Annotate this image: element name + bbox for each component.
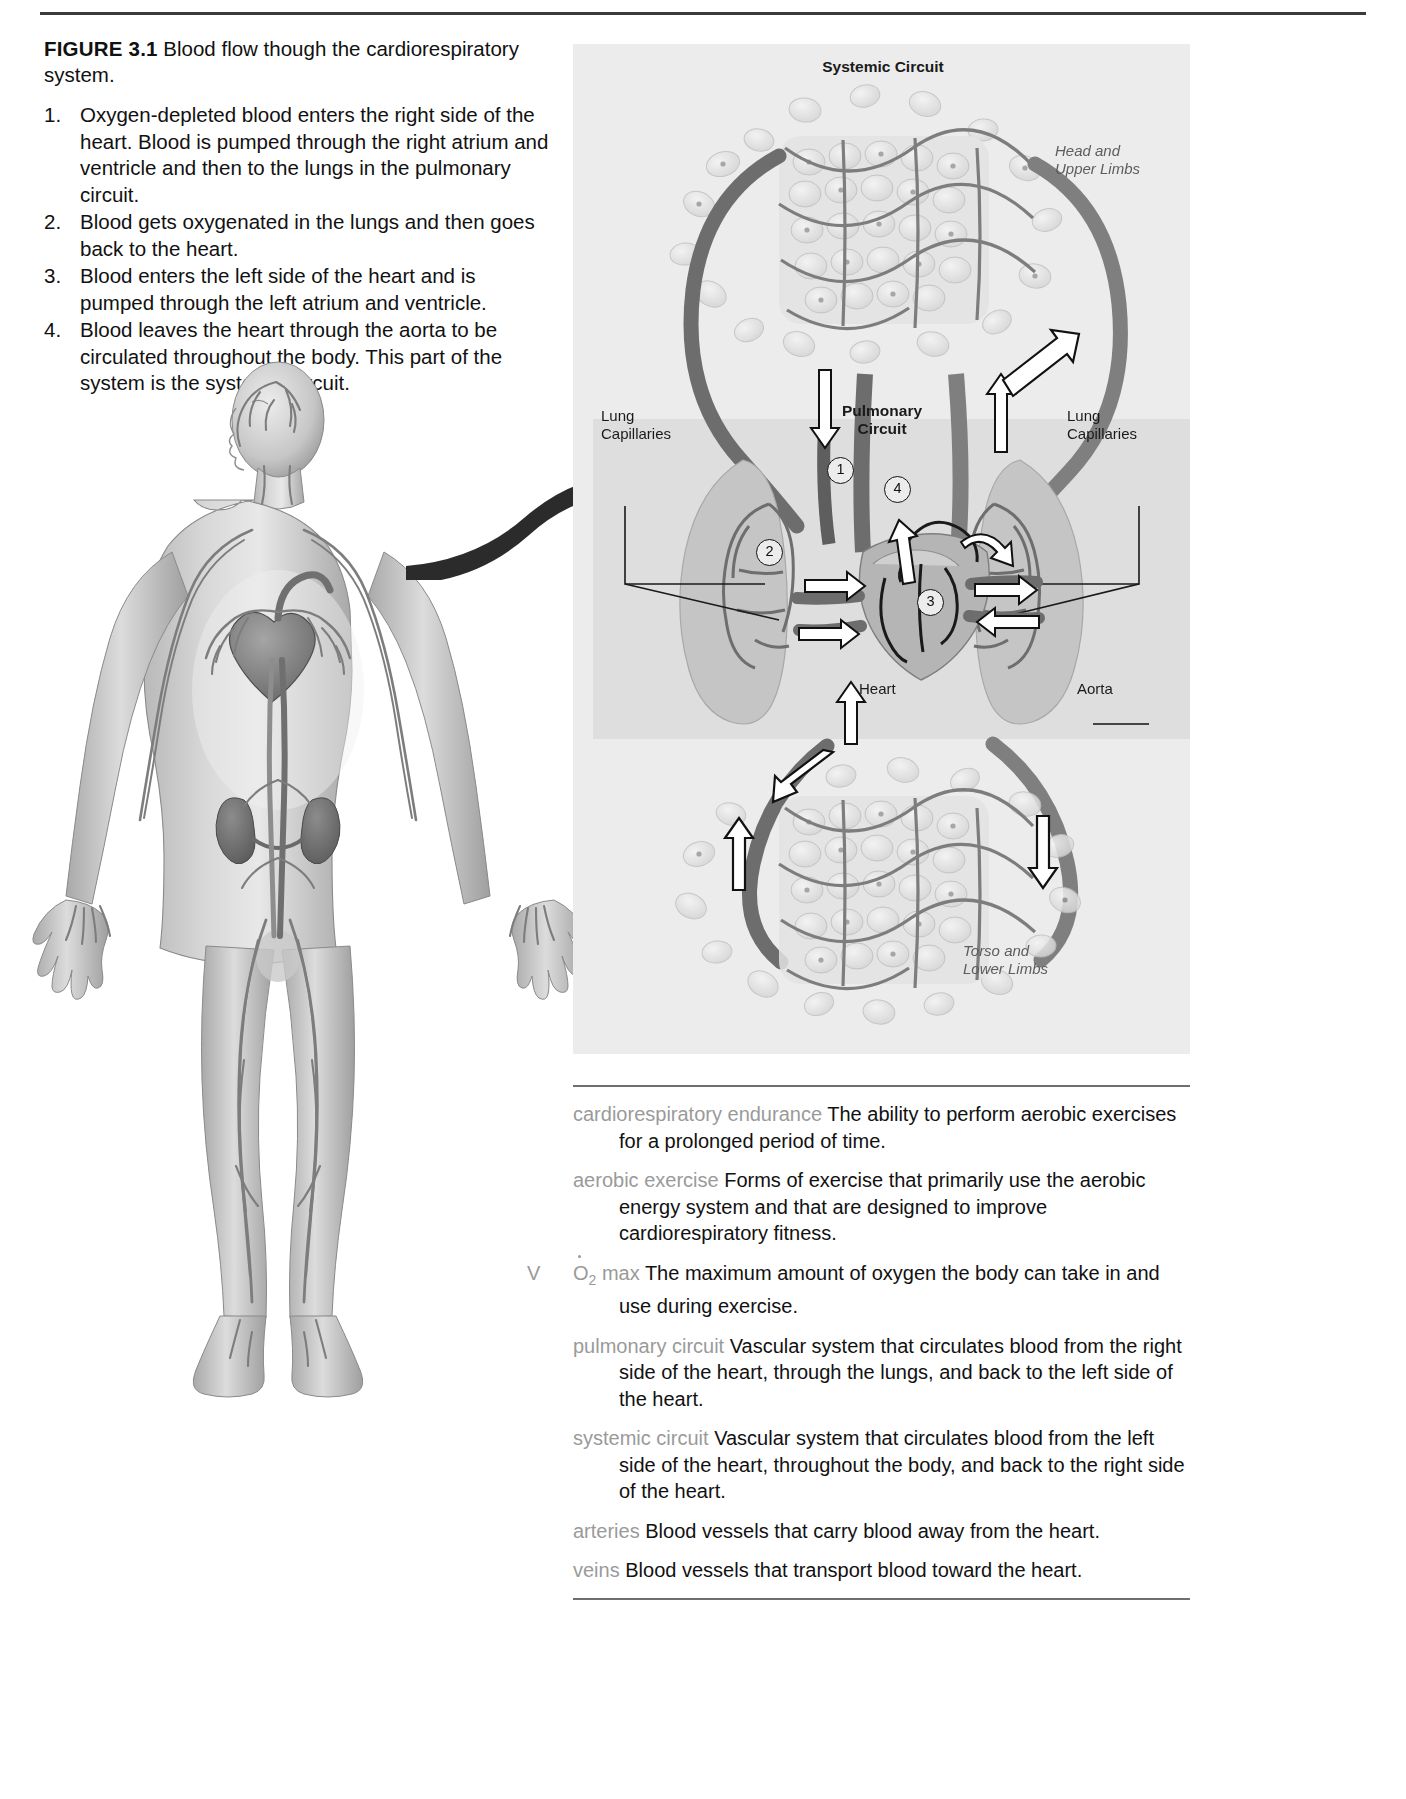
step-marker-2: 2 (756, 539, 783, 566)
step-number: 3. (44, 263, 70, 290)
cardiorespiratory-diagram-panel: Systemic Circuit Head and Upper Limbs To… (573, 44, 1190, 1054)
systemic-circuit-title: Systemic Circuit (753, 58, 1013, 76)
list-item: 2. Blood gets oxygenated in the lungs an… (44, 209, 554, 262)
glossary-term: pulmonary circuit (573, 1335, 724, 1357)
glossary-definition: The maximum amount of oxygen the body ca… (619, 1262, 1160, 1318)
list-item: 1. Oxygen-depleted blood enters the righ… (44, 102, 554, 208)
glossary-list: cardiorespiratory endurance The ability … (573, 1087, 1193, 1584)
step-text: Blood enters the left side of the heart … (80, 264, 487, 314)
glossary-term: systemic circuit (573, 1427, 709, 1449)
step-number: 4. (44, 317, 70, 344)
head-upper-limbs-label: Head and Upper Limbs (1055, 142, 1140, 178)
glossary-term: arteries (573, 1520, 640, 1542)
glossary-term: VO2 max (573, 1262, 640, 1284)
figure-label: FIGURE 3.1 (44, 37, 158, 60)
step-marker-1: 1 (827, 457, 854, 484)
step-marker-4: 4 (884, 476, 911, 503)
list-item: pulmonary circuit Vascular system that c… (573, 1333, 1193, 1413)
aorta-label: Aorta (1077, 680, 1113, 698)
lung-capillaries-right-label: Lung Capillaries (1067, 407, 1137, 443)
list-item: cardiorespiratory endurance The ability … (573, 1101, 1193, 1154)
list-item: veins Blood vessels that transport blood… (573, 1557, 1193, 1584)
torso-lower-limbs-label: Torso and Lower Limbs (963, 942, 1048, 978)
step-marker-3: 3 (917, 589, 944, 616)
heart-label: Heart (859, 680, 896, 698)
step-text: Blood gets oxygenated in the lungs and t… (80, 210, 535, 260)
list-item: VO2 max The maximum amount of oxygen the… (573, 1260, 1193, 1320)
glossary-bottom-rule (573, 1598, 1190, 1600)
step-number: 1. (44, 102, 70, 129)
diagram-vessels-and-tissue (573, 44, 1190, 1054)
glossary-term: veins (573, 1559, 620, 1581)
list-item: systemic circuit Vascular system that ci… (573, 1425, 1193, 1505)
page-top-rule (40, 12, 1366, 15)
glossary-term: aerobic exercise (573, 1169, 719, 1191)
list-item: arteries Blood vessels that carry blood … (573, 1518, 1193, 1545)
glossary-term: cardiorespiratory endurance (573, 1103, 822, 1125)
figure-caption-column: FIGURE 3.1 Blood flow though the cardior… (44, 36, 554, 398)
glossary-section: cardiorespiratory endurance The ability … (573, 1085, 1193, 1600)
textbook-page: FIGURE 3.1 Blood flow though the cardior… (0, 0, 1406, 1799)
list-item: aerobic exercise Forms of exercise that … (573, 1167, 1193, 1247)
glossary-definition: Blood vessels that transport blood towar… (625, 1559, 1082, 1581)
step-text: Oxygen-depleted blood enters the right s… (80, 103, 548, 206)
glossary-definition: Blood vessels that carry blood away from… (645, 1520, 1100, 1542)
list-item: 3. Blood enters the left side of the hea… (44, 263, 554, 316)
figure-caption: FIGURE 3.1 Blood flow though the cardior… (44, 36, 554, 88)
figure-steps-list: 1. Oxygen-depleted blood enters the righ… (44, 102, 554, 397)
pulmonary-circuit-title: Pulmonary Circuit (817, 402, 947, 438)
step-number: 2. (44, 209, 70, 236)
lung-capillaries-left-label: Lung Capillaries (601, 407, 671, 443)
